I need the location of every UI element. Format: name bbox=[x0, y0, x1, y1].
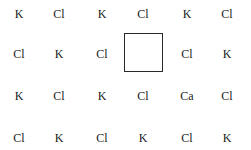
chloride-ion: Cl bbox=[13, 48, 24, 60]
potassium-ion: K bbox=[98, 8, 107, 20]
chloride-ion: Cl bbox=[13, 132, 24, 144]
potassium-ion: K bbox=[15, 90, 24, 102]
potassium-ion: K bbox=[15, 8, 24, 20]
potassium-ion: K bbox=[183, 8, 192, 20]
chloride-ion: Cl bbox=[137, 90, 148, 102]
chloride-ion: Cl bbox=[181, 132, 192, 144]
chloride-ion: Cl bbox=[221, 90, 232, 102]
chloride-ion: Cl bbox=[181, 48, 192, 60]
calcium-ion: Ca bbox=[180, 90, 193, 102]
chloride-ion: Cl bbox=[53, 8, 64, 20]
chloride-ion: Cl bbox=[96, 48, 107, 60]
chloride-ion: Cl bbox=[221, 8, 232, 20]
potassium-ion: K bbox=[223, 132, 232, 144]
potassium-ion: K bbox=[223, 48, 232, 60]
cation-vacancy-box bbox=[124, 33, 163, 72]
potassium-ion: K bbox=[98, 90, 107, 102]
chloride-ion: Cl bbox=[53, 90, 64, 102]
chloride-ion: Cl bbox=[137, 8, 148, 20]
chloride-ion: Cl bbox=[96, 132, 107, 144]
potassium-ion: K bbox=[55, 48, 64, 60]
potassium-ion: K bbox=[55, 132, 64, 144]
potassium-ion: K bbox=[139, 132, 148, 144]
